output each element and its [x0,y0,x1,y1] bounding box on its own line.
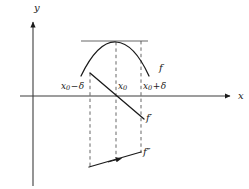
tick-operator: + [152,81,161,91]
curve-label-f-double-prime: f″ [143,147,150,157]
tick-delta: δ [79,81,84,91]
curve-label-f-prime: f′ [146,113,152,123]
curve-f-double-prime [89,152,141,167]
tick-operator: − [70,81,79,91]
curve-label-f: f [159,63,163,73]
tick-label-x0: x0 [118,82,127,92]
figure-drawing [0,0,249,189]
x-axis-label: x [238,91,244,101]
figure-canvas: y x x0−δ x0 x0+δ f f′ f″ [0,0,249,189]
tick-subscript: 0 [123,84,127,92]
tick-label-x0-plus-delta: x0+δ [143,82,166,92]
y-axis-label: y [34,3,40,13]
tick-label-x0-minus-delta: x0−δ [61,82,84,92]
tick-delta: δ [161,81,166,91]
curve-f [81,42,149,76]
